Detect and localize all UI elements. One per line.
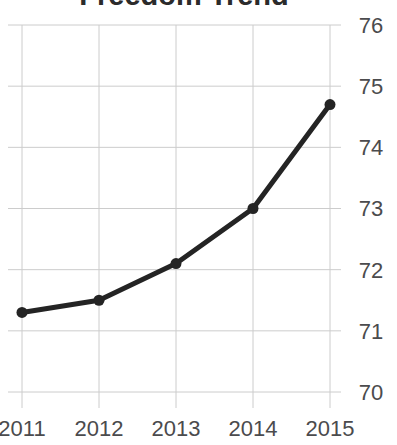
data-point xyxy=(94,295,105,306)
freedom-trend-chart: Freedom Trend 70717273747576201120122013… xyxy=(0,0,397,445)
x-tick-label: 2015 xyxy=(306,416,355,441)
data-point xyxy=(17,307,28,318)
y-tick-label: 71 xyxy=(359,319,383,344)
data-point xyxy=(248,203,259,214)
data-point xyxy=(171,258,182,269)
y-tick-label: 76 xyxy=(359,13,383,38)
y-tick-label: 73 xyxy=(359,196,383,221)
x-tick-label: 2013 xyxy=(152,416,201,441)
x-tick-label: 2011 xyxy=(0,416,46,441)
y-tick-label: 70 xyxy=(359,380,383,405)
x-tick-label: 2012 xyxy=(75,416,124,441)
y-tick-label: 72 xyxy=(359,258,383,283)
line-chart-canvas: 7071727374757620112012201320142015 xyxy=(0,0,397,445)
x-tick-label: 2014 xyxy=(229,416,278,441)
y-tick-label: 75 xyxy=(359,74,383,99)
data-point xyxy=(325,99,336,110)
y-tick-label: 74 xyxy=(359,135,383,160)
